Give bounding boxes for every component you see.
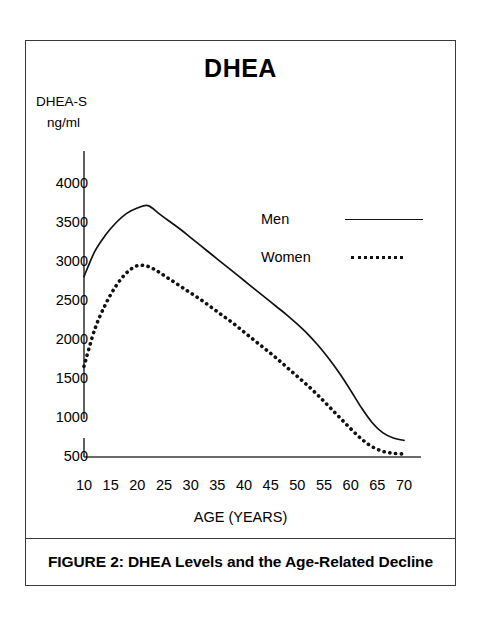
x-axis-tick-55: 55 xyxy=(309,478,339,493)
x-axis-tick-60: 60 xyxy=(336,478,366,493)
x-axis-tick-45: 45 xyxy=(256,478,286,493)
x-axis-tick-70: 70 xyxy=(389,478,419,493)
x-axis-tick-50: 50 xyxy=(282,478,312,493)
x-axis-tick-20: 20 xyxy=(122,478,152,493)
figure-container: DHEA DHEA-S ng/ml 5001000150020002500300… xyxy=(25,40,456,586)
caption-divider xyxy=(26,538,455,539)
x-axis-tick-10: 10 xyxy=(69,478,99,493)
legend-label-men: Men xyxy=(261,211,289,227)
legend-swatch-women-dotted-line xyxy=(351,256,403,263)
x-axis-tick-labels: 10152025303540455055606570 xyxy=(26,41,457,587)
x-axis-title: AGE (YEARS) xyxy=(26,509,455,525)
legend-row-men: Men xyxy=(261,211,436,249)
legend-row-women: Women xyxy=(261,249,436,287)
x-axis-tick-65: 65 xyxy=(362,478,392,493)
x-axis-tick-15: 15 xyxy=(96,478,126,493)
x-axis-tick-40: 40 xyxy=(229,478,259,493)
x-axis-tick-30: 30 xyxy=(176,478,206,493)
x-axis-tick-25: 25 xyxy=(149,478,179,493)
x-axis-tick-35: 35 xyxy=(202,478,232,493)
legend-label-women: Women xyxy=(261,249,311,265)
chart-legend: Men Women xyxy=(261,211,436,287)
figure-caption: FIGURE 2: DHEA Levels and the Age-Relate… xyxy=(26,553,455,571)
legend-swatch-men-solid-line xyxy=(345,219,423,224)
